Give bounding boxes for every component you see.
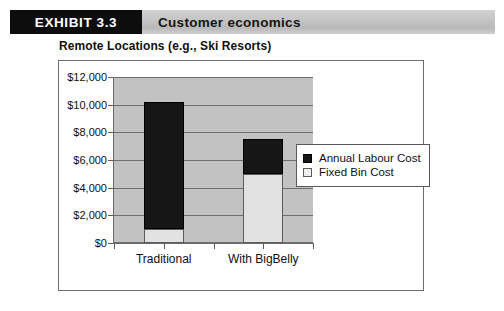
x-axis-label: With BigBelly <box>228 252 299 266</box>
y-axis-label: $8,000 <box>73 126 107 138</box>
plot-area: $0$2,000$4,000$6,000$8,000$10,000$12,000… <box>113 77 313 244</box>
y-axis-tick <box>108 215 114 216</box>
y-axis-tick <box>108 160 114 161</box>
y-axis-label: $2,000 <box>73 209 107 221</box>
x-axis-tick <box>164 243 165 249</box>
y-axis-label: $12,000 <box>67 71 107 83</box>
y-axis-tick <box>108 105 114 106</box>
chart-legend: Annual Labour CostFixed Bin Cost <box>296 144 430 187</box>
exhibit-number-tag: EXHIBIT 3.3 <box>10 10 142 34</box>
bar-segment[interactable] <box>243 174 283 243</box>
legend-label: Annual Labour Cost <box>319 152 421 164</box>
chart-frame: $0$2,000$4,000$6,000$8,000$10,000$12,000… <box>58 60 424 291</box>
y-axis-label: $4,000 <box>73 182 107 194</box>
y-axis-label: $6,000 <box>73 154 107 166</box>
y-axis-label: $10,000 <box>67 99 107 111</box>
chart-subtitle: Remote Locations (e.g., Ski Resorts) <box>59 39 271 53</box>
y-axis-tick <box>108 77 114 78</box>
legend-item[interactable]: Annual Labour Cost <box>303 152 421 164</box>
y-axis-tick <box>108 132 114 133</box>
legend-swatch-dark <box>303 154 312 163</box>
legend-label: Fixed Bin Cost <box>319 166 394 178</box>
bar-segment[interactable] <box>144 229 184 243</box>
bar-segment[interactable] <box>243 139 283 174</box>
legend-item[interactable]: Fixed Bin Cost <box>303 166 421 178</box>
gridline <box>114 77 313 78</box>
legend-swatch-light <box>303 168 312 177</box>
y-axis-label: $0 <box>95 237 107 249</box>
x-axis-tick <box>263 243 264 249</box>
bar-segment[interactable] <box>144 102 184 229</box>
x-axis-tick <box>214 243 215 249</box>
x-axis-tick <box>114 243 115 249</box>
exhibit-header-band: EXHIBIT 3.3 Customer economics <box>10 10 495 34</box>
y-axis-tick <box>108 188 114 189</box>
x-axis-tick <box>313 243 314 249</box>
x-axis-label: Traditional <box>136 252 192 266</box>
exhibit-title: Customer economics <box>158 10 301 34</box>
